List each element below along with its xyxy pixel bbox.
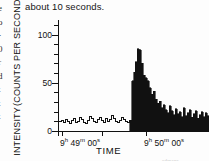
burst-filled-series (130, 49, 209, 131)
y-tick-30 (54, 102, 58, 103)
x-label-min: 50 (155, 138, 164, 148)
y-axis-title: INTENSITY (COUNTS PER SECOND) (12, 20, 38, 132)
y-tick-50 (52, 83, 58, 84)
y-tick-60 (54, 73, 58, 74)
x-tick-label-left: 9h 49m 00s (60, 139, 100, 148)
y-tick-40 (54, 92, 58, 93)
hour-superscript: h (149, 137, 152, 143)
y-tick-20 (54, 112, 58, 113)
minute-superscript: m (164, 137, 169, 143)
y-tick-label-50: 50 (43, 78, 52, 87)
x-axis-line (58, 131, 209, 132)
light-curve-figure: INTENSITY (COUNTS PER SECOND) 0 50 100 (0, 14, 209, 161)
y-axis-line (58, 20, 59, 132)
figure-page: e o - 0 r d t t t about 10 seconds. INTE… (0, 0, 209, 161)
x-axis-title: TIME (96, 145, 121, 156)
y-axis-title-line2: (COUNTS PER SECOND) (12, 0, 23, 106)
y-tick-90 (54, 44, 58, 45)
background-outline-series (58, 116, 134, 124)
y-tick-label-100: 100 (38, 30, 52, 39)
scan-watermark: admaps (162, 158, 179, 161)
x-tick-right (58, 131, 59, 136)
y-tick-label-0: 0 (47, 127, 52, 136)
light-curve-trace (58, 20, 209, 132)
x-tick-left (62, 131, 63, 136)
caption-fragment: about 10 seconds. (25, 1, 104, 12)
x-label-min: 49 (71, 138, 80, 148)
y-axis-title-line1: INTENSITY (12, 107, 23, 156)
y-tick-70 (54, 63, 58, 64)
hour-superscript: h (65, 137, 68, 143)
second-superscript: s (97, 137, 100, 143)
y-tick-100 (52, 35, 58, 36)
y-tick-10 (54, 121, 58, 122)
minute-superscript: m (80, 137, 85, 143)
second-superscript: s (181, 137, 184, 143)
x-tick-label-right: 9h 50m 00s (144, 139, 184, 148)
y-tick-80 (54, 54, 58, 55)
plot-area: 0 50 100 9h 49m 00s (58, 20, 209, 132)
x-tick-mid (102, 131, 103, 136)
x-tick-minute (146, 131, 147, 136)
x-label-sec: 00 (171, 138, 180, 148)
y-tick-110 (54, 25, 58, 26)
